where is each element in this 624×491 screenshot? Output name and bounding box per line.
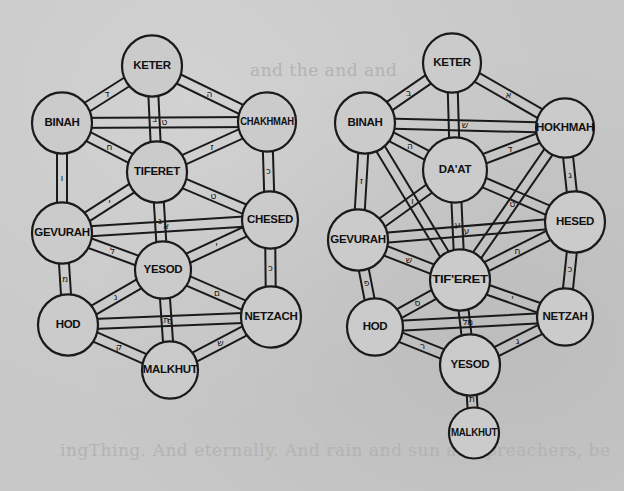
hebrew-letter-label: כ xyxy=(266,166,271,176)
hebrew-letter-label: ג xyxy=(568,170,572,180)
node-label: BINAH xyxy=(45,116,80,128)
node-label: TIF'ERET xyxy=(432,273,488,285)
sefirah-node-tiferet: TIFERET xyxy=(127,141,187,202)
hebrew-letter-label: מ xyxy=(467,317,473,327)
node-label: GEVURAH xyxy=(330,233,385,245)
hebrew-letter-label: מ xyxy=(62,274,68,284)
node-label: BINAH xyxy=(348,116,383,128)
sefirah-node-binah: BINAH xyxy=(32,92,92,153)
sefirah-node-yesod: YESOD xyxy=(440,334,500,395)
right-tree-nodes: KETERBINAHHOKHMAHDA'ATGEVURAHHESEDTIF'ER… xyxy=(328,33,605,458)
node-label: HOKHMAH xyxy=(536,121,594,133)
sefirah-node-malkhut: MALKHUT xyxy=(142,341,198,398)
node-label: TIFERET xyxy=(134,165,180,177)
node-label: KETER xyxy=(133,59,171,71)
node-label: CHAKHMAH xyxy=(240,115,294,127)
hebrew-letter-label: ח xyxy=(107,142,113,152)
node-label: HOD xyxy=(363,320,388,332)
sefirah-node-malkhut: MALKHUT xyxy=(449,408,499,459)
hebrew-letter-label: ג xyxy=(158,216,162,226)
hebrew-letter-label: ג xyxy=(516,336,520,346)
sefirah-node-chesed: CHESED xyxy=(242,191,298,248)
node-label: YESOD xyxy=(451,358,490,370)
sefirah-node-binah: BINAH xyxy=(335,92,395,153)
hebrew-letter-label: ה xyxy=(407,141,413,151)
sefirah-node-hod: HOD xyxy=(38,294,98,355)
sefirah-node-tiferet: TIF'ERET xyxy=(430,249,490,310)
hebrew-letter-label: ס xyxy=(415,298,421,308)
sefirah-node-keter: KETER xyxy=(122,35,182,96)
hebrew-letter-label: ח xyxy=(515,246,521,256)
hebrew-letter-label: ז xyxy=(210,142,213,152)
left-tree-nodes: KETERBINAHCHAKHMAHTIFERETGEVURAHCHESEDYE… xyxy=(32,35,301,398)
node-label: MALKHUT xyxy=(451,426,497,438)
hebrew-letter-label: ו xyxy=(411,196,413,206)
sefirah-node-gevurah: GEVURAH xyxy=(328,209,388,270)
node-label: HESED xyxy=(556,215,594,227)
hebrew-letter-label: א xyxy=(505,90,511,100)
hebrew-letter-label: ר xyxy=(420,341,425,351)
hebrew-letter-label: ו xyxy=(61,173,63,183)
hebrew-letter-label: ל xyxy=(110,246,115,256)
sefirah-node-daat: DA'AT xyxy=(423,137,487,202)
hebrew-letter-label: י xyxy=(511,293,513,303)
hebrew-letter-label: ז xyxy=(360,176,363,186)
node-label: YESOD xyxy=(144,263,183,275)
sefirah-node-yesod: YESOD xyxy=(135,241,191,298)
hebrew-letter-label: ם xyxy=(214,288,220,298)
node-label: CHESED xyxy=(247,213,293,225)
sefirah-node-gevurah: GEVURAH xyxy=(32,202,92,263)
hebrew-letter-label: י xyxy=(215,240,217,250)
hebrew-letter-label: ד xyxy=(105,89,110,99)
hebrew-letter-label: ד xyxy=(508,144,513,154)
hebrew-letter-label: נ xyxy=(114,292,118,302)
node-label: MALKHUT xyxy=(143,363,198,375)
hebrew-letter-label: ק xyxy=(116,342,122,352)
hebrew-letter-label: פ xyxy=(167,316,173,326)
hebrew-letter-label: פ xyxy=(364,278,370,288)
sefirah-node-hod: HOD xyxy=(347,298,403,355)
sefirah-node-hesed: HESED xyxy=(545,191,605,252)
paths-layer: דהבטחזוכיטגאלימכנםתפקשבאשהדזוגטעעשחפכסיל… xyxy=(57,59,580,434)
sefirah-node-chakhmah: CHAKHMAH xyxy=(238,92,296,151)
hebrew-letter-label: ש xyxy=(462,120,468,130)
node-label: KETER xyxy=(433,56,471,68)
hebrew-letter-label: ש xyxy=(406,255,412,265)
hebrew-letter-label: כ xyxy=(568,264,573,274)
node-label: HOD xyxy=(56,318,81,330)
tree-of-life-diagrams: דהבטחזוכיטגאלימכנםתפקשבאשהדזוגטעעשחפכסיל… xyxy=(0,0,624,491)
sefirah-node-netzah: NETZAH xyxy=(537,288,593,345)
hebrew-letter-label: י xyxy=(108,197,110,207)
hebrew-letter-label: ה xyxy=(207,89,213,99)
hebrew-letter-label: ש xyxy=(217,338,223,348)
node-label: NETZAH xyxy=(543,310,588,322)
hebrew-letter-label: א xyxy=(163,221,169,231)
sefirah-node-keter: KETER xyxy=(423,33,481,92)
hebrew-letter-label: ב xyxy=(406,88,411,98)
hebrew-letter-label: ע xyxy=(464,226,470,236)
hebrew-letter-label: ט xyxy=(211,191,217,201)
hebrew-letter-label: ט xyxy=(162,117,168,127)
hebrew-letter-label: ע xyxy=(455,220,461,230)
node-label: GEVURAH xyxy=(34,226,89,238)
sefirah-node-netzach: NETZACH xyxy=(241,286,301,347)
node-label: NETZACH xyxy=(245,310,298,322)
sefirah-node-chokhmah: HOKHMAH xyxy=(536,98,594,157)
path-gevurah-hesed: ע xyxy=(358,217,576,245)
hebrew-letter-label: כ xyxy=(268,263,273,273)
node-label: DA'AT xyxy=(439,163,472,175)
